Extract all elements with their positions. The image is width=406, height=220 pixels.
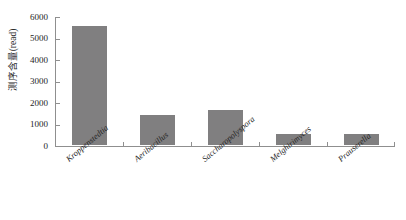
bar-chart: 测序含量(read) 0100020003000400050006000 Kro…	[0, 0, 406, 220]
x-axis-tick-mark	[259, 142, 260, 146]
y-axis-tick-label: 5000	[18, 34, 48, 43]
y-axis-tick-label: 6000	[18, 13, 48, 22]
x-axis-tick-mark	[394, 142, 395, 146]
y-axis-tick-labels: 0100020003000400050006000	[18, 0, 48, 220]
y-axis-tick-mark	[56, 39, 60, 40]
y-axis-tick-mark	[56, 146, 60, 147]
x-axis-tick-mark	[327, 142, 328, 146]
y-axis-tick-mark	[56, 60, 60, 61]
y-axis-tick-mark	[56, 125, 60, 126]
x-axis-tick-mark	[191, 142, 192, 146]
y-axis-tick-mark	[56, 103, 60, 104]
y-axis-tick-label: 2000	[18, 99, 48, 108]
y-axis-tick-label: 4000	[18, 56, 48, 65]
x-axis-tick-mark	[123, 142, 124, 146]
y-axis-tick-mark	[56, 17, 60, 18]
y-axis-tick-mark	[56, 82, 60, 83]
y-axis-tick-label: 0	[18, 142, 48, 151]
y-axis-tick-label: 1000	[18, 120, 48, 129]
y-axis-tick-label: 3000	[18, 77, 48, 86]
